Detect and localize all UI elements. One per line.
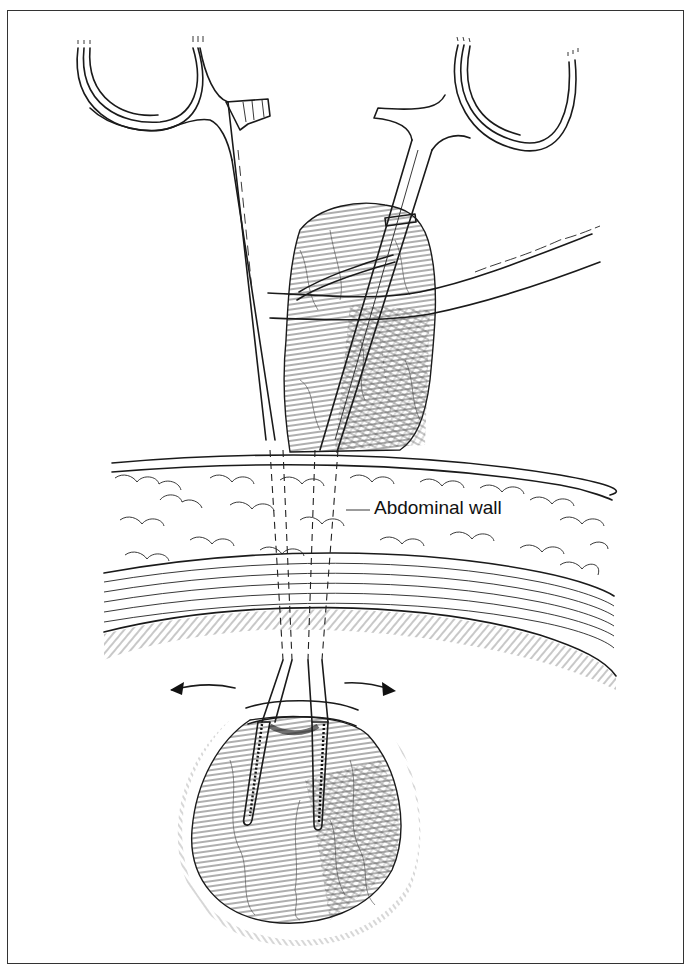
surgical-illustration [0,0,691,975]
abdominal-wall-label: Abdominal wall [372,497,504,519]
right-arrow-head [382,682,396,696]
lower-bowel-segment [178,660,421,946]
left-arrow-head [170,682,184,695]
abdominal-wall [104,450,616,690]
upper-bowel-segment [268,203,600,452]
left-clamp [77,36,275,440]
